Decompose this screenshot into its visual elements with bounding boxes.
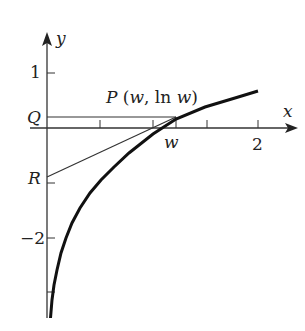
- point-r-label: R: [27, 168, 41, 188]
- w-label: w: [164, 132, 179, 152]
- x-tick-label-2: 2: [252, 134, 263, 154]
- point-p-label: P (w, ln w): [105, 87, 198, 107]
- ln-graph-figure: y x 1 −2 2 Q R w P (w, ln w): [0, 0, 305, 331]
- point-q-label: Q: [27, 107, 41, 127]
- y-tick-label-1: 1: [30, 62, 41, 82]
- x-axis-label: x: [283, 101, 293, 121]
- y-tick-label-minus2: −2: [20, 228, 45, 248]
- ln-curve: [51, 91, 259, 318]
- y-axis-label: y: [55, 28, 66, 48]
